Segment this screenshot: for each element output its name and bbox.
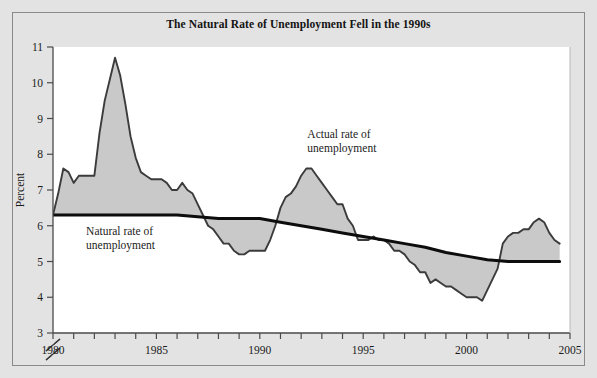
natural-rate-label-line2: unemployment [86,239,156,252]
y-axis-tick-label: 11 [32,41,43,53]
y-axis-tick-label: 4 [37,291,43,303]
y-axis-tick-label: 3 [37,327,43,339]
x-axis-tick-label: 1980 [42,344,65,356]
x-axis-tick-label: 2000 [455,344,478,356]
y-axis-title: Percent [14,172,26,207]
natural-rate-label: Natural rate of [86,225,153,237]
x-axis-tick-label: 1990 [248,344,271,356]
actual-rate-label-line2: unemployment [307,142,377,155]
x-axis-tick-label: 1985 [145,344,168,356]
actual-rate-label: Actual rate of [307,128,370,140]
chart-plot-area: 34567891011198019851990199520002005Perce… [0,0,597,378]
x-axis-tick-label: 1995 [352,344,375,356]
y-axis-tick-label: 7 [37,184,43,196]
y-axis-tick-label: 10 [32,77,44,89]
chart-figure: The Natural Rate of Unemployment Fell in… [0,0,597,378]
y-axis-tick-label: 9 [37,113,43,125]
x-axis-tick-label: 2005 [559,344,582,356]
y-axis-tick-label: 6 [37,220,43,232]
y-axis-tick-label: 8 [37,148,43,160]
y-axis-tick-label: 5 [37,256,43,268]
